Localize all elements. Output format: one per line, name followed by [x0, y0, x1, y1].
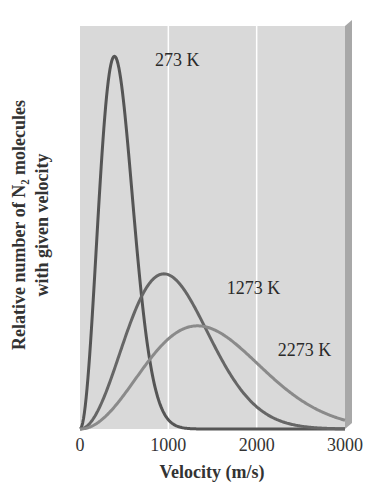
plot-panel-side [345, 20, 352, 429]
speed-distribution-chart: 273 K1273 K2273 K 0100020003000 Velocity… [0, 0, 385, 503]
y-axis-title: Relative number of N₂ molecules with giv… [9, 100, 52, 350]
x-tick-0: 0 [76, 435, 85, 455]
x-tick-2000: 2000 [239, 435, 275, 455]
curve-label-2273k: 2273 K [278, 340, 332, 360]
plot-area [80, 26, 345, 429]
y-axis-title-line-2: with given velocity [32, 154, 52, 297]
x-tick-1000: 1000 [150, 435, 186, 455]
y-axis-title-line-1: Relative number of N₂ molecules [9, 100, 29, 350]
x-axis-title: Velocity (m/s) [160, 462, 265, 483]
curve-label-1273k: 1273 K [227, 278, 281, 298]
curve-label-273k: 273 K [155, 50, 200, 70]
x-tick-labels: 0100020003000 [76, 435, 364, 455]
x-tick-3000: 3000 [327, 435, 363, 455]
